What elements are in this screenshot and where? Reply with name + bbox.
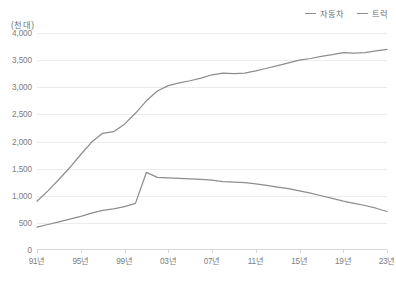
x-axis-tick-labels: 91년95년99년03년07년11년15년19년23년 <box>37 254 387 268</box>
series-lines <box>37 33 387 250</box>
series-line-truck <box>37 172 387 227</box>
x-axis-tick-label: 99년 <box>116 254 133 266</box>
x-axis-tick-label: 91년 <box>29 254 46 266</box>
legend-label-truck: 트럭 <box>372 7 388 19</box>
legend-line-swatch-truck <box>357 13 368 14</box>
chart-legend: 자동차 트럭 <box>305 6 388 20</box>
legend-item-automobile[interactable]: 자동차 <box>305 7 343 19</box>
tick-mark <box>37 250 38 253</box>
y-axis-tick-labels: 4,0003,5003,0002,5002,0001,5001,0005000 <box>0 33 32 250</box>
x-axis-tick-label: 03년 <box>160 254 177 266</box>
x-axis-tick-label: 07년 <box>204 254 221 266</box>
tick-mark <box>343 250 344 253</box>
tick-mark <box>300 250 301 253</box>
tick-mark <box>81 250 82 253</box>
legend-label-automobile: 자동차 <box>320 7 343 19</box>
plot-area <box>37 33 387 250</box>
series-line-automobile <box>37 49 387 201</box>
tick-mark <box>168 250 169 253</box>
x-axis-tick-label: 11년 <box>248 254 264 266</box>
y-axis-tick-label: 4,000 <box>12 29 32 38</box>
tick-mark <box>256 250 257 253</box>
y-axis-tick-label: 3,000 <box>12 83 32 92</box>
tick-mark <box>212 250 213 253</box>
x-axis-tick-label: 95년 <box>72 254 89 266</box>
y-axis-tick-label: 2,000 <box>12 137 32 146</box>
y-axis-tick-label: 3,500 <box>12 56 32 65</box>
tick-mark <box>125 250 126 253</box>
y-axis-tick-label: 500 <box>19 218 32 227</box>
x-axis-tick-label: 23년 <box>379 254 396 266</box>
legend-line-swatch-automobile <box>305 13 316 14</box>
x-axis-tick-label: 15년 <box>291 254 308 266</box>
y-axis-tick-label: 1,500 <box>12 164 32 173</box>
x-axis-tick-label: 19년 <box>335 254 352 266</box>
y-axis-tick-label: 2,500 <box>12 110 32 119</box>
vehicle-registration-line-chart: 자동차 트럭 (천 대) 4,0003,5003,0002,5002,0001,… <box>0 0 396 282</box>
y-axis-tick-label: 1,000 <box>12 191 32 200</box>
legend-item-truck[interactable]: 트럭 <box>357 7 388 19</box>
tick-mark <box>387 250 388 253</box>
